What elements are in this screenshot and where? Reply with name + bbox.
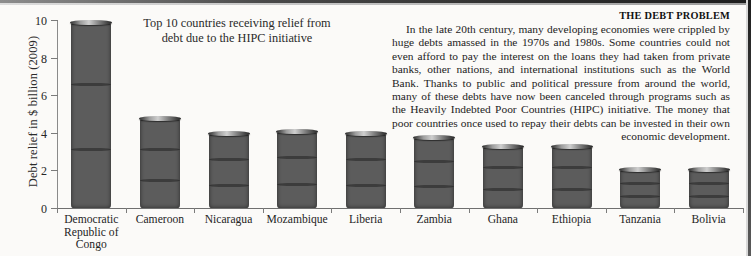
- coin-seam: [620, 195, 660, 198]
- coin-stack-top: [70, 20, 112, 25]
- coin-stack-top: [482, 144, 524, 149]
- plot-area: [57, 20, 743, 208]
- bar-bolivia: [689, 169, 729, 208]
- coin-stack-top: [276, 129, 318, 134]
- coin-stack-top: [345, 131, 387, 136]
- x-tick: [606, 208, 607, 213]
- bar-ghana: [483, 146, 523, 208]
- coin-seam: [209, 184, 249, 187]
- y-tick-label-8: 8: [22, 59, 47, 60]
- x-tick: [263, 208, 264, 213]
- x-axis-label-line: Democratic: [57, 214, 126, 227]
- x-tick: [400, 208, 401, 213]
- coin-seam: [552, 188, 592, 191]
- x-tick: [126, 208, 127, 213]
- y-tick-label-10: 10: [22, 21, 47, 22]
- coin-seam: [483, 166, 523, 169]
- coin-seam: [620, 182, 660, 185]
- x-tick: [743, 208, 744, 213]
- coin-seam: [552, 166, 592, 169]
- x-axis-label-nicaragua: Nicaragua: [194, 214, 263, 227]
- infographic-page: Debt relief in $ billion (2009) 0 2 4 6 …: [0, 0, 751, 256]
- coin-seam: [346, 158, 386, 161]
- coin-seam: [209, 158, 249, 161]
- coin-stack-top: [551, 144, 593, 149]
- y-tick-label-0: 0: [22, 209, 47, 210]
- bar-zambia: [414, 137, 454, 208]
- coin-seam: [140, 179, 180, 182]
- bar-ethiopia: [552, 146, 592, 208]
- x-tick: [537, 208, 538, 213]
- x-axis-label-line: Mozambique: [263, 214, 332, 227]
- coin-seam: [689, 195, 729, 198]
- x-axis-label-line: Zambia: [400, 214, 469, 227]
- coin-seam: [71, 83, 111, 86]
- coin-stack-top: [619, 167, 661, 172]
- x-axis-label-liberia: Liberia: [331, 214, 400, 227]
- x-axis-label-line: Tanzania: [606, 214, 675, 227]
- coin-seam: [71, 148, 111, 151]
- x-tick: [674, 208, 675, 213]
- x-axis-label-bolivia: Bolivia: [674, 214, 743, 227]
- coin-seam: [414, 185, 454, 188]
- y-axis-title: Debt relief in $ billion (2009): [26, 17, 41, 207]
- coin-seam: [140, 148, 180, 151]
- x-axis-label-line: Bolivia: [674, 214, 743, 227]
- bar-democratic-republic-of-congo: [71, 22, 111, 208]
- y-tick-label-4: 4: [22, 134, 47, 135]
- coin-seam: [277, 156, 317, 159]
- x-tick: [331, 208, 332, 213]
- x-axis-label-mozambique: Mozambique: [263, 214, 332, 227]
- coin-stack-top: [413, 135, 455, 140]
- coin-seam: [277, 183, 317, 186]
- page-edge-right-highlight: [746, 0, 748, 256]
- x-tick: [194, 208, 195, 213]
- page-edge-top-highlight: [0, 3, 751, 5]
- x-axis-label-line: Cameroon: [126, 214, 195, 227]
- bar-tanzania: [620, 169, 660, 208]
- coin-stack-top: [208, 131, 250, 136]
- x-axis-label-line: Nicaragua: [194, 214, 263, 227]
- x-axis-label-tanzania: Tanzania: [606, 214, 675, 227]
- coin-seam: [689, 182, 729, 185]
- y-tick-label-2: 2: [22, 171, 47, 172]
- coin-seam: [414, 160, 454, 163]
- coin-seam: [346, 184, 386, 187]
- x-tick: [469, 208, 470, 213]
- bar-nicaragua: [209, 133, 249, 208]
- x-axis-label-line: Ghana: [469, 214, 538, 227]
- bar-cameroon: [140, 118, 180, 208]
- x-axis-label-democratic-republic-of-congo: DemocraticRepublic ofCongo: [57, 214, 126, 252]
- coin-seam: [483, 188, 523, 191]
- x-axis-label-ethiopia: Ethiopia: [537, 214, 606, 227]
- coin-stack-top: [139, 116, 181, 121]
- bar-liberia: [346, 133, 386, 208]
- x-axis-label-zambia: Zambia: [400, 214, 469, 227]
- x-axis-label-line: Ethiopia: [537, 214, 606, 227]
- x-axis-label-cameroon: Cameroon: [126, 214, 195, 227]
- x-axis-label-ghana: Ghana: [469, 214, 538, 227]
- coin-stack-top: [688, 167, 730, 172]
- y-tick-label-6: 6: [22, 96, 47, 97]
- x-axis-label-line: Liberia: [331, 214, 400, 227]
- x-tick-origin: [57, 208, 58, 213]
- bar-mozambique: [277, 131, 317, 208]
- x-axis-label-line: Congo: [57, 239, 126, 252]
